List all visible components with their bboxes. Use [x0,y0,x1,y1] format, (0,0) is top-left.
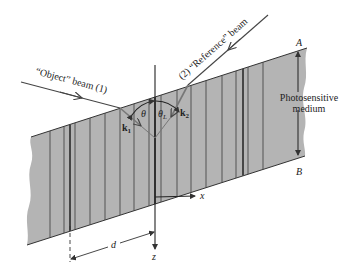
object-beam-label: “Object” beam (1) [34,65,108,96]
d-spacing-label: d [111,239,117,250]
d-dimension-left [71,247,108,259]
medium-label-line1: Photosensitive [280,92,339,103]
medium-label-line2: medium [293,103,326,114]
theta-label: θ [141,108,146,119]
hologram-recording-diagram: “Object” beam (1) (2) “Reference” beam P… [0,0,346,276]
x-axis-label: x [199,190,205,201]
object-beam-arrow [60,92,82,98]
z-axis-label: z [151,251,156,262]
point-b-label: B [296,166,302,177]
d-dimension-right [120,232,154,243]
point-a-label: A [295,37,303,48]
